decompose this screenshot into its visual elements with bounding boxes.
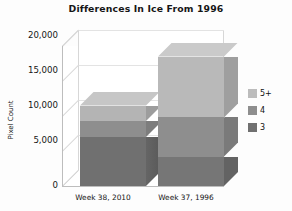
chart-container: Differences In Ice From 1996 Pixel Count…: [0, 0, 292, 211]
legend-item-5plus[interactable]: 5+: [248, 88, 292, 98]
y-tick-15000: 15,000: [10, 65, 58, 75]
y-tick-10000: 10,000: [10, 100, 58, 110]
bar-segment-5plus-front: [80, 106, 146, 121]
bar-segment-5plus[interactable]: [80, 106, 146, 121]
bar-segment-4[interactable]: [80, 121, 146, 137]
bar-segment-5plus-side: [224, 57, 238, 118]
y-axis-tick-labels: 20,000 15,000 10,000 5,000 0: [6, 30, 58, 190]
x-axis-line: [62, 186, 224, 187]
bar-top-lid: [158, 43, 238, 57]
bar-segment-3-side: [224, 157, 238, 186]
legend-swatch-4: [248, 106, 257, 115]
legend-label-5plus: 5+: [260, 89, 272, 98]
bar-segment-3[interactable]: [80, 137, 146, 186]
bar-week-38-2010[interactable]: [80, 30, 146, 186]
y-tick-0: 0: [10, 180, 58, 190]
bar-segment-4-side: [224, 117, 238, 156]
bar-segment-5plus[interactable]: [158, 57, 224, 118]
bar-segment-4-front: [158, 117, 224, 156]
bar-week-37-1996[interactable]: [158, 30, 224, 186]
legend: 5+ 4 3: [248, 88, 292, 139]
plot-area: [62, 30, 240, 190]
bar-segment-3-front: [80, 137, 146, 186]
bar-top-lid: [80, 92, 160, 106]
chart-title: Differences In Ice From 1996: [0, 3, 292, 14]
gridline-connector-20000: [62, 30, 79, 47]
legend-item-4[interactable]: 4: [248, 105, 292, 115]
x-tick-week-38-2010: Week 38, 2010: [63, 193, 143, 202]
bar-segment-4[interactable]: [158, 117, 224, 156]
bar-segment-5plus-front: [158, 57, 224, 118]
y-axis-line: [62, 46, 63, 186]
legend-label-3: 3: [260, 123, 265, 132]
bar-segment-3[interactable]: [158, 157, 224, 186]
legend-item-3[interactable]: 3: [248, 122, 292, 132]
legend-label-4: 4: [260, 106, 265, 115]
x-tick-week-37-1996: Week 37, 1996: [146, 193, 226, 202]
bar-segment-4-front: [80, 121, 146, 137]
legend-swatch-3: [248, 123, 257, 132]
bar-segment-3-front: [158, 157, 224, 186]
legend-swatch-5plus: [248, 89, 257, 98]
y-tick-5000: 5,000: [10, 135, 58, 145]
y-tick-20000: 20,000: [10, 30, 58, 40]
